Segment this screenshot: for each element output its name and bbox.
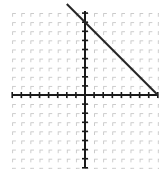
plot-canvas xyxy=(0,0,164,175)
coordinate-plane-figure xyxy=(0,0,164,175)
